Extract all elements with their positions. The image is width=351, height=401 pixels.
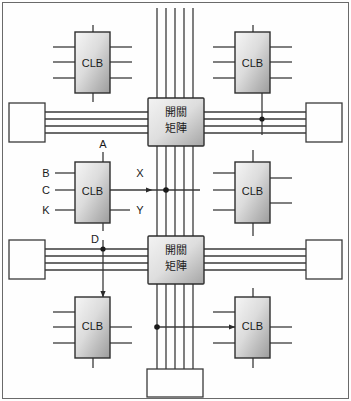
io-pad-bottom <box>147 369 203 397</box>
pin-label-c: C <box>42 184 50 196</box>
diagram-canvas: 開關 矩陣 開關 矩陣 CLB <box>0 0 351 401</box>
junction-dot-d-bus <box>100 246 105 251</box>
junction-dot-top-right <box>259 116 264 121</box>
clb-mid-left-label: CLB <box>82 185 103 197</box>
io-pad-right-bottom <box>306 240 342 279</box>
clb-top-left-label: CLB <box>82 57 103 69</box>
io-pad-left-top <box>9 103 45 142</box>
junction-dot-bottom-bus <box>154 324 160 330</box>
pin-label-d: D <box>91 233 99 245</box>
switch-matrix-bottom-label-line1: 開關 <box>165 244 187 256</box>
clb-bottom-left-label: CLB <box>82 320 103 332</box>
junction-dot-x-bus <box>163 187 169 193</box>
switch-matrix-top-label-line1: 開關 <box>165 106 187 118</box>
pin-label-a: A <box>99 138 107 150</box>
pin-label-k: K <box>42 204 50 216</box>
switch-matrix-bottom[interactable]: 開關 矩陣 <box>148 236 204 284</box>
switch-matrix-top[interactable]: 開關 矩陣 <box>148 98 204 146</box>
clb-mid-right-label: CLB <box>242 185 263 197</box>
switch-matrix-top-label-line2: 矩陣 <box>165 122 187 134</box>
pin-label-x: X <box>136 167 144 179</box>
clb-top-right-label: CLB <box>242 57 263 69</box>
pin-label-b: B <box>42 167 49 179</box>
clb-bottom-right-label: CLB <box>242 320 263 332</box>
io-pad-left-bottom <box>9 240 45 279</box>
io-pad-right-top <box>306 103 342 142</box>
pin-label-y: Y <box>136 204 144 216</box>
fpga-architecture-diagram: 開關 矩陣 開關 矩陣 CLB <box>0 0 351 401</box>
switch-matrix-bottom-label-line2: 矩陣 <box>165 260 187 272</box>
